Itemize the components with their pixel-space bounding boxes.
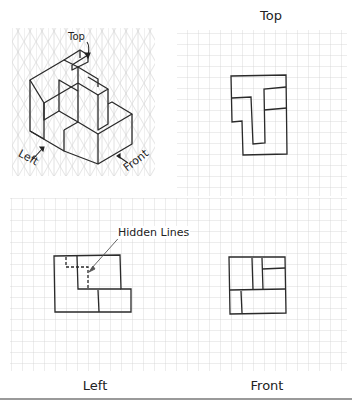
top-view-grid: [177, 30, 347, 196]
bottom-grid: [10, 198, 347, 371]
bottom-divider: [0, 398, 352, 400]
left-view-label: Left: [70, 378, 120, 393]
top-view-label: Top: [246, 8, 296, 23]
front-view-label: Front: [237, 378, 297, 393]
hidden-lines-annotation: Hidden Lines: [117, 226, 190, 239]
worksheet-canvas: [0, 0, 352, 403]
isometric-top-label: Top: [68, 31, 85, 42]
